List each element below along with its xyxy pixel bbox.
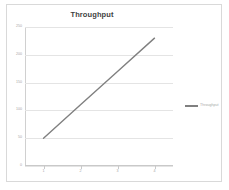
series-line-throughput: [25, 27, 173, 166]
x-tick-label: 2: [80, 170, 82, 174]
gridline: [25, 166, 173, 167]
chart-container: Throughput 050100150200250 1234 Throughp…: [6, 4, 222, 182]
legend-label-throughput: Throughput: [200, 104, 218, 108]
x-tick-label: 3: [117, 170, 119, 174]
y-tick-label: 200: [16, 53, 22, 57]
y-tick-label: 150: [16, 81, 22, 85]
plot-area: 050100150200250 1234: [25, 27, 173, 166]
y-tick-label: 250: [16, 25, 22, 29]
legend-swatch-throughput: [185, 105, 198, 107]
y-tick-label: 100: [16, 109, 22, 113]
x-tick-label: 1: [43, 170, 45, 174]
y-tick-label: 0: [20, 164, 22, 168]
chart-legend: Throughput: [185, 104, 218, 108]
chart-title: Throughput: [7, 10, 177, 19]
y-tick-label: 50: [18, 136, 22, 140]
x-tick-label: 4: [154, 170, 156, 174]
